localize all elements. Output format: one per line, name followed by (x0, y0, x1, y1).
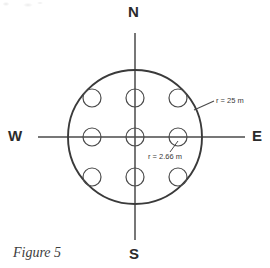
compass-label-east: E (252, 128, 262, 143)
compass-label-north: N (128, 4, 139, 19)
figure-container: N S W E r = 25 m r = 2.66 m Figure 5 (0, 0, 270, 268)
outer-radius-leader-line (194, 101, 214, 110)
figure-caption: Figure 5 (13, 246, 61, 260)
compass-label-south: S (129, 246, 139, 261)
small-circle-southwest (83, 168, 101, 186)
small-circle-northwest (83, 89, 101, 107)
inner-radius-annotation: r = 2.66 m (148, 153, 182, 161)
small-circle-northeast (169, 89, 187, 107)
outer-radius-annotation: r = 25 m (216, 97, 244, 105)
well-field-diagram (0, 0, 270, 268)
small-circle-southeast (169, 168, 187, 186)
compass-label-west: W (8, 128, 22, 143)
